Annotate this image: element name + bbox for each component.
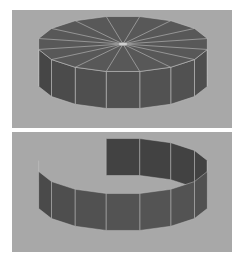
ring-wall-face [140,189,171,230]
ring-wall-face [39,171,52,218]
cylinder-side-face [140,67,171,108]
ring-wall-face [106,139,140,176]
viewport-solid-cylinder [12,10,232,128]
ring-wall-face [51,182,75,227]
cylinder-render [12,10,232,128]
ring-wall-face [171,143,195,188]
cylinder-side-face [106,71,140,108]
ring-wall-face [106,193,140,230]
cylinder-side-face [75,67,106,108]
ring-wall-face [171,182,195,227]
ring-wall-face [140,139,171,180]
viewport-ring-wall [12,132,232,252]
ring-wall-face [75,189,106,230]
cap-center-vertex [119,43,127,46]
ring-render [12,132,232,252]
